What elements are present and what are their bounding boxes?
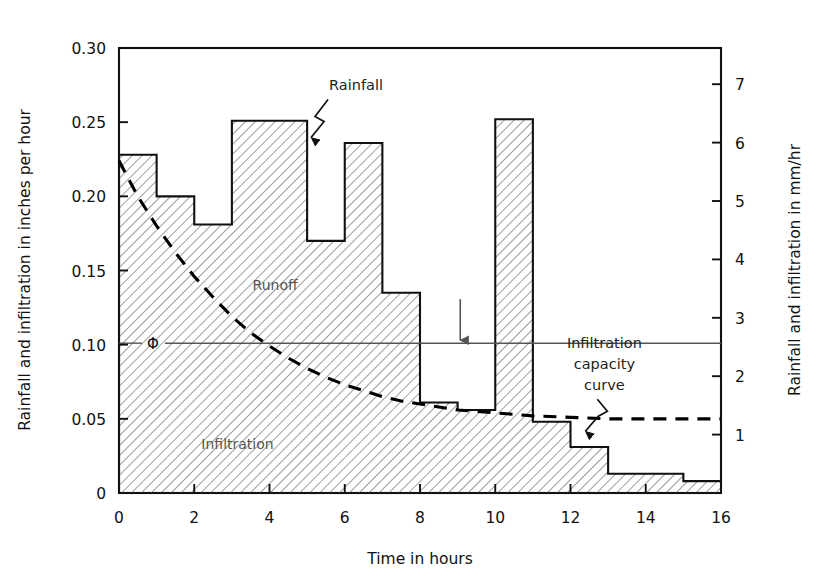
capacity-annotation-line2: capacity <box>574 356 636 372</box>
y-tick-label-left: 0.20 <box>71 188 106 206</box>
hyetograph-infiltration-chart: Φ 00.050.100.150.200.250.30 1234567 0246… <box>0 0 829 580</box>
x-tick-label: 8 <box>415 509 425 527</box>
x-axis-title: Time in hours <box>366 550 473 568</box>
capacity-annotation-line1: Infiltration <box>567 335 642 351</box>
y-axis-right-title: Rainfall and infiltration in mm/hr <box>786 143 804 396</box>
x-tick-label: 2 <box>189 509 199 527</box>
y-tick-label-right: 6 <box>735 135 745 153</box>
y-tick-label-right: 7 <box>735 76 745 94</box>
y-tick-label-left: 0.25 <box>71 114 106 132</box>
y-tick-label-right: 5 <box>735 193 745 211</box>
y-tick-label-right: 2 <box>735 368 745 386</box>
x-tick-label: 12 <box>561 509 581 527</box>
x-tick-label: 10 <box>485 509 505 527</box>
runoff-annotation-label: Runoff <box>253 277 298 293</box>
phi-index-label: Φ <box>147 335 159 353</box>
x-tick-label: 4 <box>265 509 275 527</box>
x-tick-label: 14 <box>636 509 656 527</box>
rainfall-annotation-label: Rainfall <box>329 77 383 93</box>
infiltration-annotation-label: Infiltration <box>201 436 273 452</box>
y-tick-label-left: 0.10 <box>71 337 106 355</box>
y-tick-label-left: 0.15 <box>71 263 106 281</box>
y-tick-label-left: 0.30 <box>71 40 106 58</box>
y-tick-label-right: 4 <box>735 251 745 269</box>
x-tick-label: 6 <box>340 509 350 527</box>
y-axis-left-title: Rainfall and infiltration in inches per … <box>16 109 34 431</box>
chart-root: Φ 00.050.100.150.200.250.30 1234567 0246… <box>0 0 829 580</box>
y-tick-label-left: 0.05 <box>71 411 106 429</box>
y-tick-label-right: 3 <box>735 310 745 328</box>
capacity-annotation-line3: curve <box>584 377 625 393</box>
x-tick-label: 0 <box>114 509 124 527</box>
x-tick-label: 16 <box>711 509 731 527</box>
y-tick-label-left: 0 <box>96 485 106 503</box>
y-tick-label-right: 1 <box>735 427 745 445</box>
